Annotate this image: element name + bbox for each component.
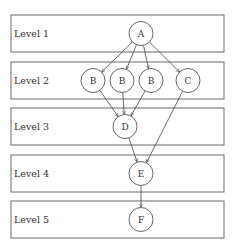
- node-label: B: [90, 76, 97, 86]
- node-label: A: [137, 29, 145, 39]
- node-label: D: [121, 122, 128, 132]
- node-b-1: B: [81, 69, 105, 93]
- node-a: A: [129, 22, 153, 46]
- level-label-1: Level 1: [14, 28, 49, 39]
- level-label-4: Level 4: [14, 168, 49, 179]
- node-b-2: B: [110, 69, 134, 93]
- layered-diagram: Level 1Level 2Level 3Level 4Level 5 ABBB…: [0, 0, 234, 248]
- node-label: E: [138, 169, 145, 179]
- node-d: D: [113, 115, 137, 139]
- node-label: F: [138, 215, 144, 225]
- node-label: C: [185, 76, 192, 86]
- node-label: B: [148, 76, 155, 86]
- node-f: F: [129, 208, 153, 232]
- node-label: B: [119, 76, 126, 86]
- level-label-5: Level 5: [14, 214, 49, 225]
- node-e: E: [129, 162, 153, 186]
- level-label-3: Level 3: [14, 121, 49, 132]
- level-label-2: Level 2: [14, 75, 49, 86]
- node-b-3: B: [139, 69, 163, 93]
- node-c: C: [176, 69, 200, 93]
